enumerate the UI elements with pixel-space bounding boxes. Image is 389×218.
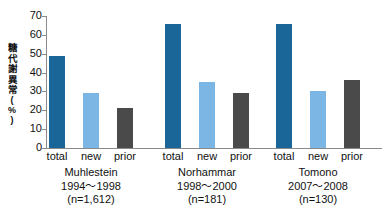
y-tick-label: 10 (30, 122, 42, 135)
y-axis-title: 糖代謝異常 (%) (2, 24, 22, 144)
x-series-label-prior: prior (331, 150, 373, 163)
y-axis-unit-text: (%) (7, 95, 17, 125)
bar-chart: 糖代謝異常 (%) 010203040506070 totalnewpriorM… (0, 0, 389, 218)
y-tick-label: 40 (30, 66, 42, 79)
bar-tomono-new (310, 91, 326, 148)
group-sample-size: (n=130) (243, 193, 389, 207)
x-series-label-prior: prior (104, 150, 146, 163)
y-tick-label: 20 (30, 103, 42, 116)
bar-muhlestein-total (49, 56, 65, 148)
x-axis-line (46, 148, 382, 149)
group-period: 2007～2008 (243, 180, 389, 194)
bar-tomono-prior (344, 80, 360, 148)
bar-muhlestein-new (83, 93, 99, 148)
y-axis-title-text: 糖代謝異常 (7, 43, 18, 96)
plot-area: 010203040506070 (46, 16, 382, 148)
y-tick-label: 70 (30, 9, 42, 22)
y-tick-label: 60 (30, 28, 42, 41)
bar-norhammar-total (165, 24, 181, 148)
group-caption-tomono: Tomono2007～2008(n=130) (243, 166, 389, 207)
x-axis-labels: totalnewpriorMuhlestein1994～1998(n=1,612… (46, 150, 382, 216)
bars-layer (46, 16, 382, 148)
group-study-name: Tomono (243, 166, 389, 180)
y-tick-mark (42, 148, 46, 149)
bar-norhammar-prior (233, 93, 249, 148)
y-tick-label: 50 (30, 47, 42, 60)
x-series-label-prior: prior (220, 150, 262, 163)
y-tick-label: 30 (30, 84, 42, 97)
bar-norhammar-new (199, 82, 215, 148)
bar-tomono-total (276, 24, 292, 148)
bar-muhlestein-prior (117, 108, 133, 148)
